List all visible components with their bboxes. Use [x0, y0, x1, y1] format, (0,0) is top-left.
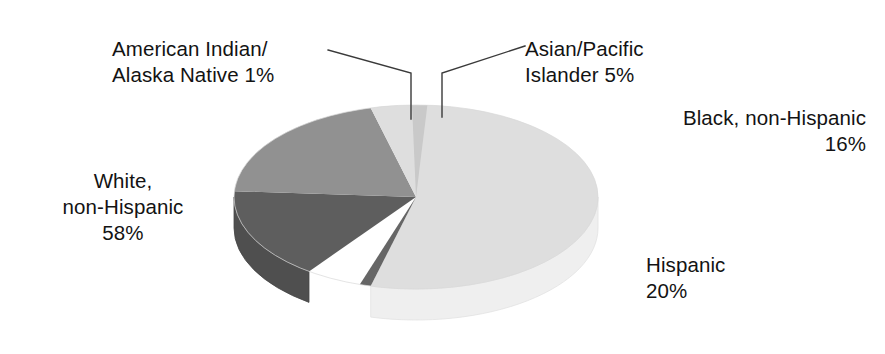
pie-label-hispanic: Hispanic 20%: [646, 252, 836, 304]
pie-label-american-indian: American Indian/ Alaska Native 1%: [112, 36, 342, 88]
leader-line-asian-pacific: [442, 46, 525, 117]
pie-label-white-non-hispanic: White, non-Hispanic 58%: [30, 168, 216, 246]
pie-label-asian-pacific-islander: Asian/Pacific Islander 5%: [525, 36, 735, 88]
pie-label-black-non-hispanic: Black, non-Hispanic 16%: [640, 105, 866, 157]
pie-chart-figure: American Indian/ Alaska Native 1% Asian/…: [0, 0, 885, 354]
